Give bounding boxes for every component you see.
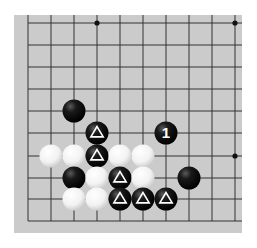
black-stone[interactable] bbox=[63, 167, 86, 190]
star-point bbox=[232, 153, 237, 158]
white-stone-circle bbox=[63, 188, 86, 211]
grid-lines bbox=[28, 15, 242, 221]
black-stone[interactable] bbox=[86, 145, 109, 168]
white-stone-circle bbox=[63, 145, 86, 168]
black-stone[interactable] bbox=[109, 167, 132, 190]
black-stone[interactable] bbox=[132, 188, 155, 211]
star-point bbox=[94, 20, 99, 25]
white-stone-circle bbox=[132, 167, 155, 190]
black-stone-circle bbox=[63, 100, 86, 123]
white-stone-circle bbox=[86, 188, 109, 211]
black-stone-circle bbox=[63, 167, 86, 190]
star-point bbox=[232, 20, 237, 25]
white-stone-circle bbox=[40, 145, 63, 168]
white-stone[interactable] bbox=[86, 188, 109, 211]
black-stone[interactable] bbox=[86, 122, 109, 145]
white-stone[interactable] bbox=[132, 145, 155, 168]
go-board-grid[interactable]: 1 bbox=[0, 0, 257, 248]
white-stone[interactable] bbox=[63, 145, 86, 168]
move-number-label: 1 bbox=[162, 124, 170, 141]
black-stone[interactable] bbox=[155, 188, 178, 211]
white-stone-circle bbox=[109, 145, 132, 168]
black-stone[interactable] bbox=[63, 100, 86, 123]
white-stone-circle bbox=[132, 145, 155, 168]
white-stone[interactable] bbox=[132, 167, 155, 190]
black-stone[interactable] bbox=[178, 167, 201, 190]
black-stone-circle bbox=[178, 167, 201, 190]
white-stone[interactable] bbox=[86, 167, 109, 190]
black-stone[interactable]: 1 bbox=[155, 122, 178, 145]
white-stone[interactable] bbox=[63, 188, 86, 211]
white-stone[interactable] bbox=[40, 145, 63, 168]
white-stone[interactable] bbox=[109, 145, 132, 168]
black-stone[interactable] bbox=[109, 188, 132, 211]
white-stone-circle bbox=[86, 167, 109, 190]
